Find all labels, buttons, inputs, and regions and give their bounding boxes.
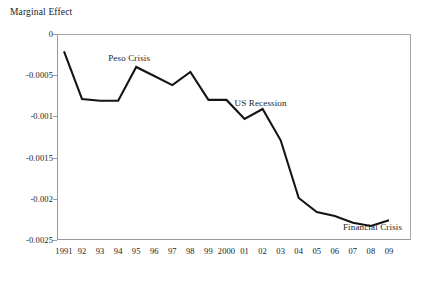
y-axis-tick-label: -0.0005: [0, 70, 53, 80]
y-axis-tick-mark: [53, 34, 57, 35]
y-axis-tick-label: -0.0015: [0, 153, 53, 163]
x-axis-tick-label: 1991: [55, 246, 72, 256]
x-axis-tick-label: 02: [258, 246, 267, 256]
y-axis-tick-mark: [53, 75, 57, 76]
x-axis-tick-label: 96: [150, 246, 159, 256]
x-axis-tick-label: 97: [168, 246, 177, 256]
plot-area: [57, 34, 411, 240]
chart-annotation-label: Peso Crisis: [108, 53, 150, 64]
y-axis-tick-label: 0: [0, 29, 53, 39]
x-axis-tick-label: 04: [294, 246, 303, 256]
y-axis-tick-mark: [53, 158, 57, 159]
y-axis-tick-mark: [53, 116, 57, 117]
x-axis-tick-label: 92: [78, 246, 87, 256]
x-axis-tick-label: 03: [276, 246, 285, 256]
x-axis-tick-label: 95: [132, 246, 141, 256]
x-axis-tick-label: 99: [204, 246, 213, 256]
x-axis-tick-label: 05: [312, 246, 321, 256]
chart-annotation-label: US Recession: [235, 98, 287, 109]
y-axis-tick-label: -0.0025: [0, 235, 53, 245]
y-axis-tick-label: -0.002: [0, 194, 53, 204]
x-axis-tick-label: 01: [240, 246, 249, 256]
y-axis-tick-label: -0.001: [0, 111, 53, 121]
x-axis-tick-label: 06: [330, 246, 339, 256]
x-axis-tick-label: 07: [349, 246, 358, 256]
chart-annotation-label: Financial Crisis: [343, 222, 402, 233]
y-axis-title: Marginal Effect: [10, 6, 72, 18]
x-axis-tick-label: 09: [385, 246, 394, 256]
x-axis-tick-label: 98: [186, 246, 195, 256]
x-axis-tick-label: 2000: [218, 246, 235, 256]
y-axis-tick-mark: [53, 240, 57, 241]
x-axis-tick-label: 93: [96, 246, 105, 256]
x-axis-tick-label: 94: [114, 246, 123, 256]
x-axis-tick-label: 08: [367, 246, 376, 256]
marginal-effect-line-chart: Marginal Effect 0-0.0005-0.001-0.0015-0.…: [0, 0, 429, 281]
y-axis-tick-mark: [53, 199, 57, 200]
